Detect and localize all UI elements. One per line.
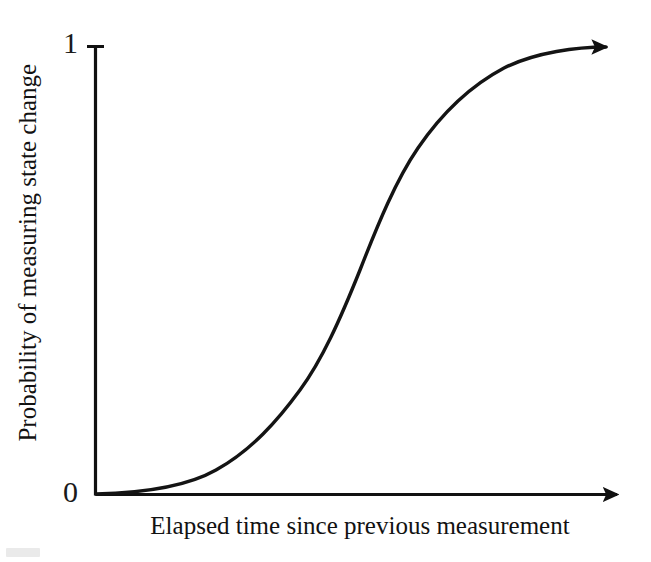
x-axis-title: Elapsed time since previous measurement	[95, 512, 625, 540]
chart-plot	[0, 0, 651, 562]
scan-artifact	[6, 548, 40, 557]
probability-curve	[96, 47, 606, 494]
figure-container: 1 0 Elapsed time since previous measurem…	[0, 0, 651, 562]
y-axis-title: Probability of measuring state change	[14, 64, 42, 442]
y-axis-title-container: Probability of measuring state change	[0, 0, 56, 505]
